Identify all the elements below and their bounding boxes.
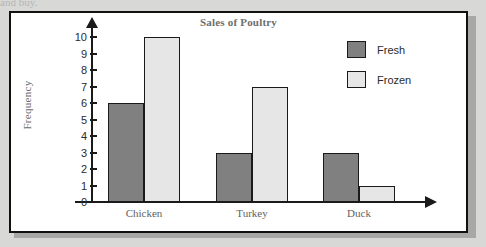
legend-item-frozen: Frozen	[347, 71, 411, 88]
category-label-turkey: Turkey	[207, 207, 297, 219]
bar-turkey-fresh	[216, 153, 252, 203]
legend-label-frozen: Frozen	[377, 74, 411, 86]
category-label-chicken: Chicken	[99, 207, 189, 219]
bar-chart: Sales of Poultry Frequency 109876543210 …	[11, 13, 466, 231]
legend-swatch-frozen	[347, 71, 366, 88]
clipped-header-text: and buy.	[0, 0, 120, 8]
legend-item-fresh: Fresh	[347, 41, 411, 58]
legend-swatch-fresh	[347, 41, 366, 58]
chart-panel: Sales of Poultry Frequency 109876543210 …	[9, 11, 468, 233]
chart-legend: Fresh Frozen	[347, 41, 411, 101]
bar-duck-fresh	[323, 153, 359, 203]
legend-label-fresh: Fresh	[377, 44, 405, 56]
bar-chicken-frozen	[144, 37, 180, 202]
category-label-duck: Duck	[314, 207, 404, 219]
bar-chicken-fresh	[108, 103, 144, 202]
bar-duck-frozen	[359, 186, 395, 203]
bar-turkey-frozen	[252, 87, 288, 203]
